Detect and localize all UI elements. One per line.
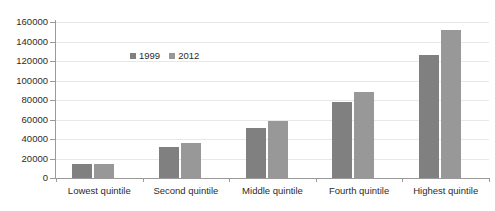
x-axis-category-label: Second quintile [143,186,230,196]
y-axis-tick-label: 160000 [0,17,48,27]
chart-legend: 19992012 [130,51,199,61]
bar [419,55,439,178]
y-axis-tick-label: 20000 [0,154,48,164]
bar-chart: 0200004000060000800001000001200001400001… [0,0,495,211]
legend-label: 2012 [178,51,199,61]
x-axis-tick [56,178,57,182]
x-axis-tick [229,178,230,182]
bar [181,143,201,178]
x-axis-tick [402,178,403,182]
y-axis-tick-label: 60000 [0,115,48,125]
y-axis-tick-label: 80000 [0,95,48,105]
bar [441,30,461,178]
x-axis-tick [489,178,490,182]
legend-item: 1999 [130,51,160,61]
y-axis-tick-label: 40000 [0,134,48,144]
bar [354,92,374,178]
x-axis-line [55,178,489,179]
bar [94,164,114,178]
y-axis-labels: 0200004000060000800001000001200001400001… [0,0,48,211]
y-axis-tick-label: 140000 [0,37,48,47]
x-axis-category-label: Lowest quintile [56,186,143,196]
x-axis-tick [143,178,144,182]
y-axis-tick-label: 0 [0,173,48,183]
x-axis-category-label: Middle quintile [229,186,316,196]
x-axis-category-label: Fourth quintile [316,186,403,196]
y-axis-tick-label: 120000 [0,56,48,66]
legend-item: 2012 [169,51,199,61]
legend-swatch-icon [130,53,136,59]
bar [332,102,352,178]
bar [268,121,288,178]
bar [159,147,179,178]
x-axis-tick [316,178,317,182]
bar [72,164,92,178]
bar [246,128,266,178]
legend-swatch-icon [169,53,175,59]
plot-area [56,22,489,178]
y-axis-tick-label: 100000 [0,76,48,86]
legend-label: 1999 [139,51,160,61]
x-axis-category-label: Highest quintile [402,186,489,196]
